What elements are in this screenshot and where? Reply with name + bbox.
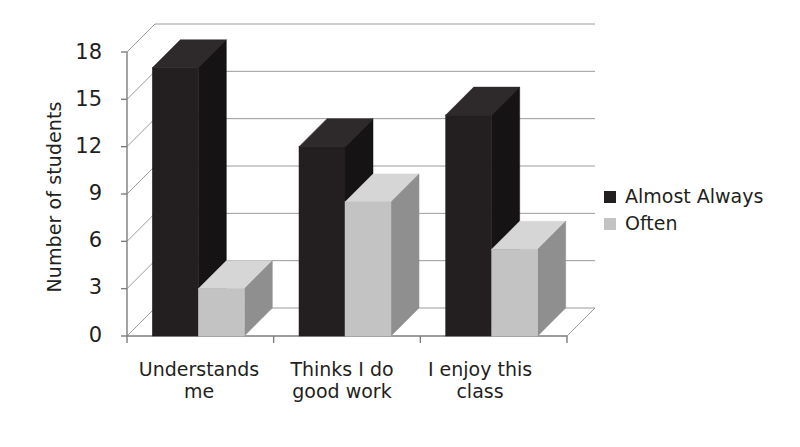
bar-2-series-1[interactable] <box>492 221 566 336</box>
legend-swatch-almost-always <box>604 191 616 203</box>
bar-side-face-1-1 <box>391 174 419 336</box>
bar-1-series-1[interactable] <box>345 174 419 336</box>
x-category-label-0: Understands me <box>124 358 274 403</box>
x-category-label-0-line-1: me <box>124 380 274 402</box>
floor-right-edge <box>567 308 595 336</box>
tick-connector-15 <box>127 71 155 99</box>
legend-item-often[interactable]: Often <box>604 210 763 237</box>
x-category-label-2-line-1: class <box>410 380 550 402</box>
x-category-label-2-line-0: I enjoy this <box>410 358 550 380</box>
tick-connector-18 <box>127 24 155 52</box>
legend: Almost Always Often <box>604 183 763 237</box>
bar-front-face-0-0 <box>152 68 198 336</box>
tick-connector-9 <box>127 166 155 194</box>
legend-label-often: Often <box>625 214 678 233</box>
bar-front-face-1-0 <box>299 147 345 336</box>
tick-connector-3 <box>127 261 155 289</box>
bar-front-face-0-1 <box>198 289 244 336</box>
legend-swatch-often <box>604 218 616 230</box>
bar-front-face-2-1 <box>492 249 538 336</box>
x-category-label-1: Thinks I do good work <box>272 358 412 403</box>
x-category-label-0-line-0: Understands <box>124 358 274 380</box>
chart-container: Number of students 18 15 12 9 6 3 0 Unde… <box>0 0 800 447</box>
bar-front-face-2-0 <box>446 115 492 336</box>
x-category-label-1-line-1: good work <box>272 380 412 402</box>
tick-connector-12 <box>127 119 155 147</box>
x-category-label-2: I enjoy this class <box>410 358 550 403</box>
legend-item-almost-always[interactable]: Almost Always <box>604 183 763 210</box>
tick-connector-0 <box>127 308 155 336</box>
x-category-label-1-line-0: Thinks I do <box>272 358 412 380</box>
tick-connector-6 <box>127 213 155 241</box>
legend-label-almost-always: Almost Always <box>625 187 763 206</box>
bar-front-face-1-1 <box>345 202 391 336</box>
